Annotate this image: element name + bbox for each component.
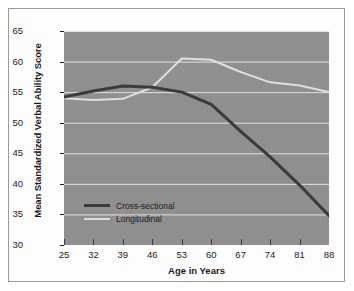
plot-area: Cross-sectional Longitudinal — [64, 31, 329, 245]
legend-swatch-cross-sectional — [84, 204, 110, 207]
legend-label-cross-sectional: Cross-sectional — [116, 201, 175, 211]
legend-item-cross-sectional: Cross-sectional — [84, 199, 175, 212]
chart-figure: Mean Standardized Verbal Ability Score C… — [8, 8, 345, 282]
chart-legend: Cross-sectional Longitudinal — [84, 199, 175, 225]
y-tick-label: 50 — [0, 117, 23, 128]
y-tick-label: 35 — [0, 208, 23, 219]
y-tickmark — [60, 62, 64, 63]
legend-label-longitudinal: Longitudinal — [116, 214, 162, 224]
y-tickmark — [60, 153, 64, 154]
y-tick-label: 40 — [0, 178, 23, 189]
y-tickmark — [60, 184, 64, 185]
legend-swatch-longitudinal — [84, 218, 110, 220]
y-tick-label: 55 — [0, 86, 23, 97]
x-axis-title: Age in Years — [64, 265, 329, 276]
y-tickmark — [60, 245, 64, 246]
y-tickmark — [60, 31, 64, 32]
y-tick-label: 30 — [0, 239, 23, 250]
y-tick-label: 65 — [0, 25, 23, 36]
legend-item-longitudinal: Longitudinal — [84, 212, 175, 225]
y-tickmark — [60, 214, 64, 215]
y-tick-label: 60 — [0, 56, 23, 67]
y-axis-title: Mean Standardized Verbal Ability Score — [32, 31, 43, 231]
y-tickmark — [60, 92, 64, 93]
y-tick-label: 45 — [0, 147, 23, 158]
y-tickmark — [60, 123, 64, 124]
x-tick-label: 88 — [312, 249, 346, 260]
